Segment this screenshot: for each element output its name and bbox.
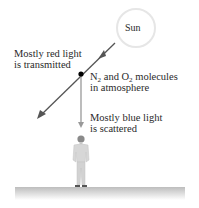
- ground: [15, 187, 185, 200]
- diagram-canvas: [0, 0, 199, 208]
- molecules-label: N2 and O2 molecules in atmosphere: [90, 71, 178, 93]
- transmitted-line-2: is transmitted: [14, 59, 82, 70]
- incoming-arrowhead-icon: [98, 50, 106, 59]
- scattered-arrowhead-icon: [78, 122, 84, 128]
- scattered-line-2: is scattered: [90, 123, 162, 134]
- sun-label: Sun: [125, 22, 141, 33]
- scattered-line-1: Mostly blue light: [90, 112, 162, 123]
- person-figure: [73, 135, 89, 187]
- molecules-line-1: N2 and O2 molecules: [90, 71, 178, 82]
- molecule-dot: [78, 71, 83, 76]
- transmitted-line-1: Mostly red light: [14, 48, 82, 59]
- transmitted-label: Mostly red light is transmitted: [14, 48, 82, 70]
- molecules-line-2: in atmosphere: [90, 82, 178, 93]
- scattered-label: Mostly blue light is scattered: [90, 112, 162, 134]
